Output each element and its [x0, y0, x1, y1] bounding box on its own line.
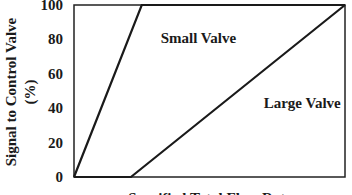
y-tick-label: 20 — [48, 135, 63, 151]
y-tick-label: 40 — [48, 100, 63, 116]
chart: 020406080100 Signal to Control Valve (%)… — [0, 0, 352, 195]
y-tick-label: 60 — [48, 66, 63, 82]
annotation-small-valve: Small Valve — [161, 30, 237, 46]
y-axis-label-unit: (%) — [22, 80, 39, 105]
y-tick-label: 0 — [56, 169, 64, 185]
x-axis-label: Specified Total Flow Rate — [128, 190, 292, 195]
y-axis-label: Signal to Control Valve — [3, 17, 19, 166]
y-tick-label: 80 — [48, 31, 63, 47]
y-tick-label: 100 — [41, 0, 64, 13]
annotation-large-valve: Large Valve — [264, 95, 341, 111]
